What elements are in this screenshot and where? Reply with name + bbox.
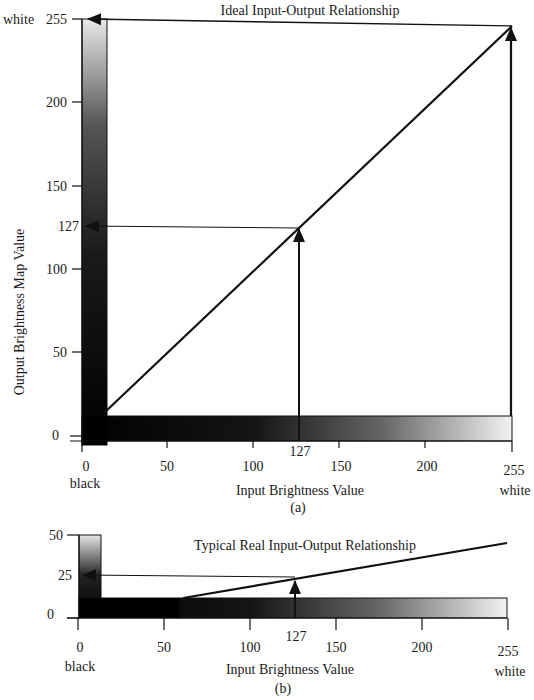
arrow-output-127 — [86, 226, 299, 228]
arrow-output-25-b — [83, 575, 295, 577]
x-tick-b-100: 100 — [240, 640, 261, 656]
y-tick-a-100: 100 — [46, 262, 67, 278]
x-tick-a-200: 200 — [417, 459, 438, 475]
y-tick-a-255: 255 — [46, 12, 67, 28]
caption-b: (b) — [275, 681, 291, 697]
x-tick-b-0: 0 — [77, 640, 84, 656]
x-axis-b-label: Input Brightness Value — [226, 662, 354, 678]
y-tick-b-25: 25 — [58, 568, 72, 584]
chart-b-title: Typical Real Input-Output Relationship — [194, 538, 416, 554]
figure-a — [70, 19, 512, 452]
x-tick-a-0: 0 — [83, 459, 90, 475]
output-gradient-bar — [82, 19, 107, 445]
ideal-mapping-line — [104, 26, 512, 413]
x-tick-b-150: 150 — [326, 640, 347, 656]
y-tick-a-127: 127 — [58, 219, 79, 235]
input-gradient-bar — [82, 416, 512, 441]
x-tick-a-150: 150 — [331, 459, 352, 475]
y-tick-b-0: 0 — [47, 607, 54, 623]
caption-a: (a) — [290, 500, 306, 516]
diagram-canvas — [0, 0, 534, 700]
x-tick-b-200: 200 — [412, 640, 433, 656]
chart-a-title: Ideal Input-Output Relationship — [221, 3, 400, 19]
x-axis-b-black-label: black — [65, 659, 95, 675]
y-tick-b-50: 50 — [49, 528, 63, 544]
y-tick-a-50: 50 — [53, 345, 67, 361]
x-tick-a-50: 50 — [160, 459, 174, 475]
x-tick-a-127: 127 — [290, 444, 311, 460]
x-tick-b-50: 50 — [157, 640, 171, 656]
x-tick-a-100: 100 — [243, 459, 264, 475]
y-axis-a-label: Output Brightness Map Value — [12, 229, 28, 396]
y-tick-a-0: 0 — [52, 428, 59, 444]
x-axis-a-label: Input Brightness Value — [236, 483, 364, 499]
x-tick-b-255: 255 — [498, 644, 519, 660]
y-axis-a-white-label: white — [3, 12, 34, 28]
x-axis-a-white-label: white — [499, 483, 530, 499]
y-tick-a-150: 150 — [46, 179, 67, 195]
x-axis-b-white-label: white — [494, 664, 525, 680]
x-tick-a-255: 255 — [504, 463, 525, 479]
x-tick-b-127: 127 — [286, 629, 307, 645]
x-axis-a-black-label: black — [70, 476, 100, 492]
arrow-output-255 — [88, 19, 512, 26]
y-tick-a-200: 200 — [46, 95, 67, 111]
